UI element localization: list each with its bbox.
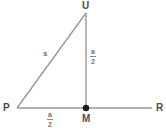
- segment-label-s: s: [43, 50, 47, 58]
- figure-canvas: [0, 0, 166, 128]
- segment-label-um-fraction: a 2: [90, 48, 96, 66]
- vertex-label-r: R: [156, 103, 163, 113]
- fraction-numerator: a: [90, 48, 96, 55]
- fraction-denominator: 2: [47, 121, 53, 128]
- point-m-dot: [83, 105, 89, 111]
- segment-pu-hypotenuse: [17, 13, 86, 108]
- fraction-denominator: 2: [90, 58, 96, 65]
- fraction-bar: [47, 119, 53, 120]
- segment-label-pm-fraction: a 2: [47, 111, 53, 128]
- vertex-label-m: M: [82, 114, 90, 124]
- geometry-figure: P U M R s a 2 a 2: [0, 0, 166, 128]
- vertex-label-p: P: [3, 103, 10, 113]
- fraction-numerator: a: [47, 111, 53, 118]
- fraction-bar: [90, 56, 96, 57]
- vertex-label-u: U: [82, 1, 89, 11]
